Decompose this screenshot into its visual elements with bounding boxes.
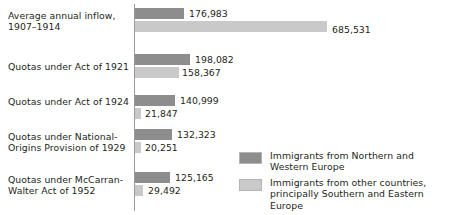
- bar-value-label: 20,251: [145, 142, 178, 153]
- chart-legend: Immigrants from Northern and Western Eur…: [239, 150, 454, 215]
- bar-value-label: 125,165: [175, 172, 214, 183]
- bar-value-label: 158,367: [182, 67, 221, 78]
- category-label: Quotas under Act of 1924: [8, 96, 132, 107]
- bar-value-label: 198,082: [195, 54, 234, 65]
- legend-item: Immigrants from Northern and Western Eur…: [239, 150, 454, 173]
- bar-series-1: [135, 185, 143, 196]
- bar-value-label: 685,531: [332, 24, 371, 35]
- category-label: Quotas under McCarran- Walter Act of 195…: [8, 174, 132, 197]
- category-label: Average annual inflow, 1907–1914: [8, 10, 132, 33]
- bar-series-1: [135, 21, 327, 32]
- legend-swatch-icon: [239, 179, 262, 191]
- bar-series-1: [135, 142, 141, 153]
- legend-label-line1: Immigrants from Northern and: [270, 150, 414, 161]
- legend-item: Immigrants from other countries, princip…: [239, 177, 454, 211]
- category-label-line1: Quotas under McCarran-: [8, 174, 123, 185]
- category-label-line2: 1907–1914: [8, 21, 60, 32]
- category-label-line2: Origins Provision of 1929: [8, 142, 126, 153]
- bar-chart: Average annual inflow, 1907–1914 176,983…: [0, 0, 457, 215]
- bar-series-1: [135, 108, 141, 119]
- bar-value-label: 176,983: [189, 8, 228, 19]
- legend-label-line1: Immigrants from other countries,: [270, 177, 426, 188]
- bar-value-label: 140,999: [180, 95, 219, 106]
- bar-value-label: 132,323: [177, 129, 216, 140]
- bar-series-0: [135, 172, 170, 183]
- category-label-line1: Quotas under National-: [8, 131, 117, 142]
- legend-label: Immigrants from Northern and Western Eur…: [270, 150, 454, 173]
- bar-value-label: 21,847: [145, 108, 178, 119]
- legend-label-line2: Western Europe: [270, 161, 344, 172]
- bar-series-0: [135, 129, 172, 140]
- category-label-line1: Average annual inflow,: [8, 10, 115, 21]
- bar-value-label: 29,492: [148, 185, 181, 196]
- category-label: Quotas under National- Origins Provision…: [8, 131, 132, 154]
- bar-series-1: [135, 67, 179, 78]
- category-label: Quotas under Act of 1921: [8, 61, 132, 72]
- legend-label-line2: principally Southern and Eastern Europe: [270, 188, 424, 210]
- legend-label: Immigrants from other countries, princip…: [270, 177, 454, 211]
- legend-swatch-icon: [239, 152, 262, 164]
- category-label-line1: Quotas under Act of 1924: [8, 96, 129, 107]
- bar-series-0: [135, 95, 175, 106]
- bar-series-0: [135, 54, 190, 65]
- category-label-line1: Quotas under Act of 1921: [8, 61, 129, 72]
- bar-series-0: [135, 8, 184, 19]
- category-label-line2: Walter Act of 1952: [8, 185, 95, 196]
